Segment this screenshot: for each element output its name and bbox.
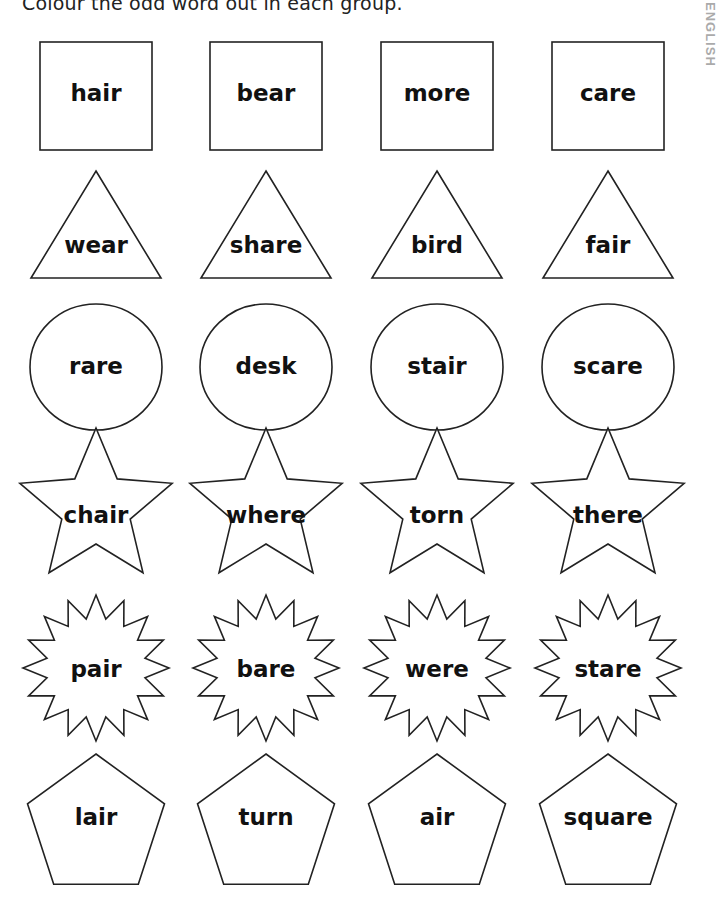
word-shape-triangle[interactable]: fair [543, 171, 673, 278]
word-label: desk [235, 353, 297, 379]
word-shape-square[interactable]: care [552, 42, 664, 150]
word-label: there [573, 502, 643, 528]
word-label: more [404, 80, 471, 106]
word-label: were [405, 656, 469, 682]
triangle-outline[interactable] [201, 171, 331, 278]
word-shape-pentagon[interactable]: square [540, 754, 677, 884]
word-label: share [230, 232, 303, 258]
word-shape-pentagon[interactable]: air [369, 754, 506, 884]
word-label: bear [237, 80, 297, 106]
triangle-outline[interactable] [372, 171, 502, 278]
word-shape-square[interactable]: hair [40, 42, 152, 150]
triangle-outline[interactable] [31, 171, 161, 278]
word-shape-circle[interactable]: rare [30, 304, 162, 430]
word-label: stair [407, 353, 467, 379]
word-label: air [420, 804, 455, 830]
word-shape-square[interactable]: bear [210, 42, 322, 150]
word-shape-triangle[interactable]: bird [372, 171, 502, 278]
word-label: fair [586, 232, 631, 258]
word-label: pair [70, 656, 122, 682]
star-outline[interactable] [532, 428, 684, 573]
triangle-outline[interactable] [543, 171, 673, 278]
word-shape-circle[interactable]: stair [371, 304, 503, 430]
word-shape-triangle[interactable]: share [201, 171, 331, 278]
word-label: chair [64, 502, 129, 528]
worksheet-shapes: hairbearmorecarewearsharebirdfairraredes… [0, 0, 723, 901]
word-label: lair [75, 804, 118, 830]
word-label: where [226, 502, 306, 528]
word-label: bare [237, 656, 296, 682]
word-label: hair [70, 80, 122, 106]
word-shape-pentagon[interactable]: turn [198, 754, 335, 884]
star-outline[interactable] [20, 428, 172, 573]
star-outline[interactable] [361, 428, 513, 573]
word-shape-circle[interactable]: scare [542, 304, 674, 430]
word-shape-star[interactable]: torn [361, 428, 513, 573]
word-shape-star[interactable]: where [190, 428, 342, 573]
word-shape-star[interactable]: there [532, 428, 684, 573]
word-label: turn [238, 804, 293, 830]
word-shape-burst[interactable]: stare [535, 595, 681, 741]
word-shape-pentagon[interactable]: lair [28, 754, 165, 884]
word-label: bird [411, 232, 463, 258]
word-shape-burst[interactable]: pair [23, 595, 169, 741]
word-shape-burst[interactable]: were [364, 595, 510, 741]
word-shape-triangle[interactable]: wear [31, 171, 161, 278]
word-shape-burst[interactable]: bare [193, 595, 339, 741]
word-label: square [564, 804, 653, 830]
word-label: wear [64, 232, 128, 258]
word-label: rare [69, 353, 123, 379]
word-shape-circle[interactable]: desk [200, 304, 332, 430]
word-label: torn [410, 502, 465, 528]
star-outline[interactable] [190, 428, 342, 573]
word-label: care [580, 80, 636, 106]
word-label: scare [573, 353, 643, 379]
word-label: stare [574, 656, 641, 682]
word-shape-star[interactable]: chair [20, 428, 172, 573]
word-shape-square[interactable]: more [381, 42, 493, 150]
